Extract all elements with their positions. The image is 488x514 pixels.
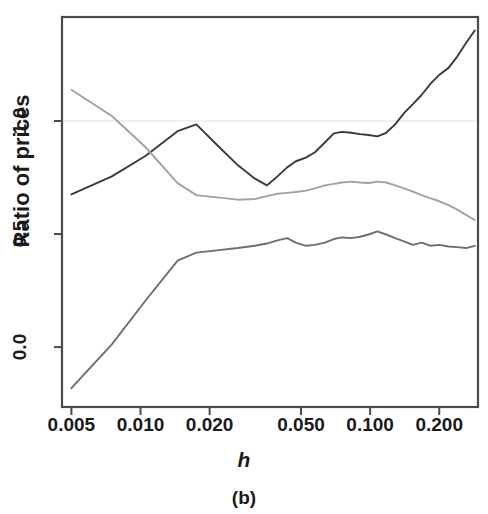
series-line-rising-dark-series: [71, 31, 474, 195]
plot-frame-rect: [62, 17, 478, 407]
series-line-rising-plateau-series: [71, 231, 474, 388]
x-tick-label: 0.010: [117, 414, 165, 436]
x-tick-label: 0.100: [346, 414, 394, 436]
plot-frame: [62, 17, 478, 407]
x-tick-label: 0.020: [186, 414, 234, 436]
figure-panel: 0.0050.0100.0200.0500.1000.200 0.00.51.0…: [0, 0, 488, 514]
x-axis-label: h: [0, 448, 488, 472]
x-tick-label: 0.050: [277, 414, 325, 436]
figure-caption: (b): [0, 487, 488, 509]
y-axis-ticks: [54, 121, 62, 347]
x-tick-label: 0.200: [415, 414, 463, 436]
series-group: [71, 31, 474, 389]
x-tick-label: 0.005: [48, 414, 96, 436]
y-tick-label: 0.0: [9, 327, 31, 367]
series-line-descending-light-series: [71, 90, 474, 220]
line-chart-plot: [0, 0, 488, 514]
y-axis-label: Ratio of prices: [9, 71, 35, 271]
